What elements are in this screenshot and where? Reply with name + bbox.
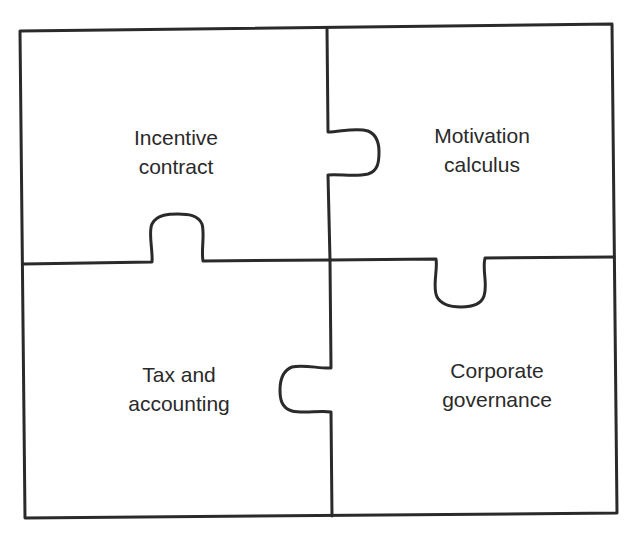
- puzzle-outer-border: [20, 24, 617, 518]
- label-line: contract: [134, 152, 218, 181]
- label-line: Corporate: [442, 356, 552, 385]
- label-line: governance: [442, 385, 552, 414]
- divider-top-vertical: [327, 28, 379, 260]
- piece-label-corporate-governance: Corporate governance: [442, 356, 552, 414]
- label-line: Incentive: [134, 123, 218, 152]
- piece-label-incentive-contract: Incentive contract: [134, 123, 218, 181]
- label-line: accounting: [128, 389, 230, 418]
- label-line: Motivation: [434, 121, 530, 150]
- divider-right-horizontal: [330, 257, 614, 307]
- label-line: calculus: [434, 150, 530, 179]
- piece-label-tax-accounting: Tax and accounting: [128, 360, 230, 418]
- puzzle-diagram: [0, 0, 638, 539]
- piece-label-motivation-calculus: Motivation calculus: [434, 121, 530, 179]
- divider-left-horizontal: [23, 214, 330, 264]
- label-line: Tax and: [128, 360, 230, 389]
- divider-bottom-vertical: [280, 260, 332, 516]
